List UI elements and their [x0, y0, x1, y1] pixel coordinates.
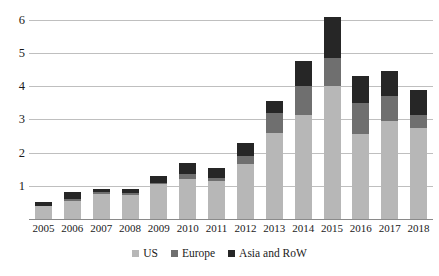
bar-segment-asia-and-row: [352, 76, 369, 103]
bar-segment-us: [237, 164, 254, 219]
y-axis-tick-label: 4: [3, 80, 25, 93]
legend-item[interactable]: Europe: [171, 248, 215, 260]
bar-segment-us: [208, 181, 225, 219]
y-axis-tick-label: 3: [3, 113, 25, 126]
bar-segment-asia-and-row: [208, 168, 225, 178]
bar-group[interactable]: [150, 176, 167, 219]
y-axis-tick-label: 1: [3, 180, 25, 193]
legend-label: Asia and RoW: [239, 248, 307, 260]
legend-label: Europe: [182, 248, 215, 260]
stacked-bar-chart: 123456 200520062007200820092010201120122…: [0, 0, 439, 276]
legend-swatch-icon: [171, 250, 178, 257]
axis-baseline: [29, 219, 433, 220]
bar-group[interactable]: [324, 17, 341, 219]
bar-segment-asia-and-row: [64, 192, 81, 199]
bar-segment-us: [93, 194, 110, 219]
bar-segment-europe: [324, 58, 341, 86]
bar-segment-europe: [381, 96, 398, 121]
bar-segment-us: [352, 134, 369, 219]
bar-group[interactable]: [93, 189, 110, 220]
bar-segment-us: [410, 128, 427, 219]
bar-group[interactable]: [179, 163, 196, 219]
bar-segment-europe: [410, 115, 427, 128]
legend-swatch-icon: [132, 250, 139, 257]
legend-label: US: [143, 248, 158, 260]
bar-segment-us: [381, 121, 398, 219]
bar-segment-us: [122, 195, 139, 219]
bar-segment-us: [295, 115, 312, 220]
bar-segment-us: [179, 179, 196, 219]
bar-group[interactable]: [410, 90, 427, 219]
bar-segment-us: [324, 86, 341, 219]
legend-item[interactable]: Asia and RoW: [228, 248, 307, 260]
bar-segment-asia-and-row: [266, 101, 283, 113]
legend-swatch-icon: [228, 250, 235, 257]
y-axis-tick-label: 5: [3, 47, 25, 60]
legend-item[interactable]: US: [132, 248, 158, 260]
bar-group[interactable]: [122, 189, 139, 219]
bar-segment-us: [64, 201, 81, 219]
bar-segment-asia-and-row: [381, 71, 398, 96]
bar-segment-us: [150, 184, 167, 219]
bar-segment-asia-and-row: [179, 163, 196, 175]
bar-segment-europe: [266, 113, 283, 133]
bar-segment-asia-and-row: [237, 143, 254, 156]
bar-group[interactable]: [35, 202, 52, 219]
bar-segment-europe: [295, 86, 312, 114]
bars-layer: [29, 10, 433, 219]
y-axis-tick-label: 2: [3, 147, 25, 160]
bar-group[interactable]: [381, 71, 398, 219]
bar-segment-us: [35, 206, 52, 219]
bar-segment-us: [266, 133, 283, 219]
x-axis-tick-label: 2018: [399, 223, 439, 234]
y-axis-tick-label: 6: [3, 14, 25, 27]
bar-group[interactable]: [352, 76, 369, 219]
bar-segment-asia-and-row: [295, 61, 312, 86]
bar-segment-asia-and-row: [410, 90, 427, 115]
bar-group[interactable]: [266, 101, 283, 219]
y-axis: 123456: [0, 10, 25, 219]
bar-segment-europe: [352, 103, 369, 135]
bar-group[interactable]: [64, 192, 81, 219]
bar-group[interactable]: [208, 168, 225, 219]
bar-segment-asia-and-row: [324, 17, 341, 58]
bar-group[interactable]: [237, 143, 254, 219]
bar-segment-asia-and-row: [150, 176, 167, 183]
chart-legend: USEuropeAsia and RoW: [0, 248, 439, 260]
bar-group[interactable]: [295, 61, 312, 219]
bar-segment-europe: [237, 156, 254, 164]
